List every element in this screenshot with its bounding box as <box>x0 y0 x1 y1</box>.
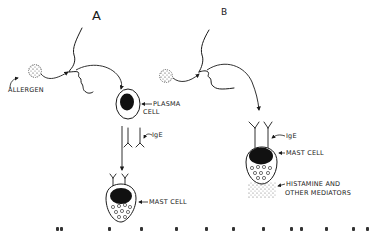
panel-b-title: B <box>221 7 227 17</box>
plasma-cell-label: PLASMA <box>153 100 181 108</box>
ige-label-b: IgE <box>286 132 297 140</box>
plasma-cell-label-2: CELL <box>143 108 160 116</box>
mast-cell-label-b: MAST CELL <box>286 149 324 157</box>
allergen-label: ALLERGEN <box>8 86 44 94</box>
allergen-particle-b-icon <box>160 70 173 83</box>
inhalation-arrow-a <box>41 72 68 78</box>
mediators-pointer-arrow <box>278 184 285 186</box>
face-profile-b-icon <box>199 30 234 89</box>
mast-cell-label-a: MAST CELL <box>149 198 187 206</box>
mast-cell-a-icon <box>106 174 136 222</box>
panel-a-title: A <box>92 8 101 23</box>
mediators-label-2: OTHER MEDIATORS <box>285 189 351 197</box>
plasma-cell-icon <box>116 89 140 119</box>
ige-antibodies-a-icon <box>124 128 144 147</box>
mast-cell-b-icon <box>246 122 277 198</box>
mediators-label-1: HISTAMINE AND <box>286 180 340 188</box>
allergy-mechanism-diagram: A B ALLERGEN PLASMA CELL IgE MAST CELL I… <box>0 0 370 232</box>
ige-pointer-arrow-b <box>272 135 285 138</box>
allergen-particle-a-icon <box>29 65 42 78</box>
ige-pointer-arrow-a <box>144 134 152 138</box>
cropped-caption-text <box>0 226 370 232</box>
inhalation-arrow-b <box>173 74 199 81</box>
face-profile-a-icon <box>69 28 93 93</box>
ige-label-a: IgE <box>152 131 163 139</box>
